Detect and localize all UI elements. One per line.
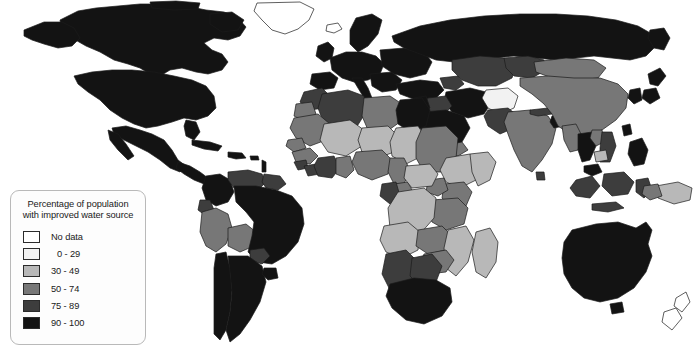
legend-label-75-89: 75 - 89 bbox=[51, 301, 79, 311]
legend-entries: No data 0 - 29 30 - 49 50 - 74 75 - 89 9 bbox=[23, 228, 137, 332]
region-central-african-rep bbox=[404, 164, 438, 188]
legend-entry-90-100: 90 - 100 bbox=[23, 315, 137, 332]
legend-swatch-30-49 bbox=[23, 265, 40, 277]
legend-title-line-1: Percentage of population bbox=[19, 199, 137, 210]
legend-swatch-90-100 bbox=[23, 317, 40, 329]
region-sri-lanka bbox=[536, 172, 545, 180]
region-tasmania bbox=[610, 302, 624, 314]
map-legend: Percentage of population with improved w… bbox=[10, 190, 146, 345]
legend-title-line-2: with improved water source bbox=[19, 210, 137, 221]
region-arctic-islands bbox=[150, 1, 200, 10]
legend-title: Percentage of population with improved w… bbox=[19, 199, 137, 222]
legend-label-30-49: 30 - 49 bbox=[51, 266, 79, 276]
legend-swatch-50-74 bbox=[23, 283, 40, 295]
legend-swatch-no-data bbox=[23, 231, 40, 243]
legend-entry-30-49: 30 - 49 bbox=[23, 263, 137, 280]
map-figure: Percentage of population with improved w… bbox=[0, 0, 698, 353]
region-puerto-rico bbox=[250, 156, 259, 160]
region-taiwan bbox=[622, 124, 632, 136]
legend-entry-0-29: 0 - 29 bbox=[23, 245, 137, 262]
legend-label-no-data: No data bbox=[51, 232, 83, 242]
legend-label-50-74: 50 - 74 bbox=[51, 284, 79, 294]
region-lesser-antilles bbox=[262, 160, 266, 172]
legend-label-90-100: 90 - 100 bbox=[51, 318, 84, 328]
legend-swatch-75-89 bbox=[23, 300, 40, 312]
legend-entry-75-89: 75 - 89 bbox=[23, 297, 137, 314]
region-cambodia bbox=[594, 150, 608, 162]
legend-entry-no-data: No data bbox=[23, 228, 137, 245]
legend-swatch-0-29 bbox=[23, 248, 40, 260]
legend-entry-50-74: 50 - 74 bbox=[23, 280, 137, 297]
legend-label-0-29: 0 - 29 bbox=[57, 249, 80, 259]
